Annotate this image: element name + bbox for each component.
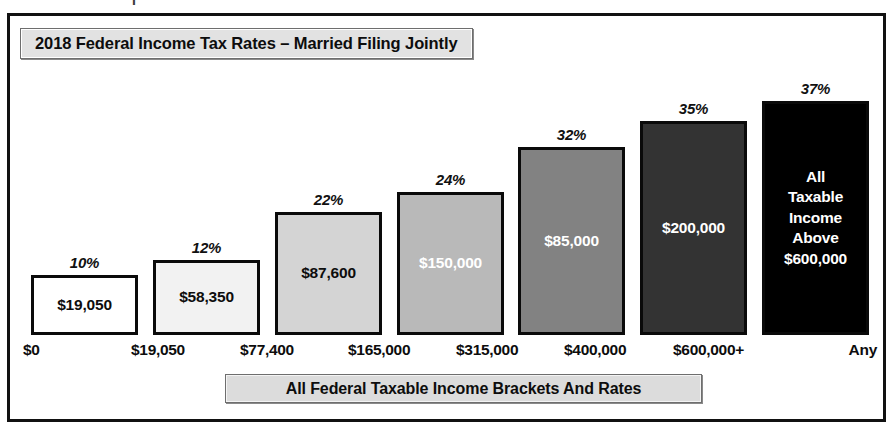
bar-value-label: $150,000 <box>417 253 484 273</box>
page-title: 2018 Federal Income Tax Rates – Married … <box>35 34 458 53</box>
bar-value-label: $19,050 <box>55 295 114 315</box>
bar-segment: $200,000 <box>640 121 747 335</box>
bar-value-label: $200,000 <box>660 218 727 238</box>
x-axis-tick: $77,400 <box>240 341 294 359</box>
bar-value-label: $87,600 <box>299 263 358 283</box>
bar-segment: All Taxable Income Above $600,000 <box>762 101 869 335</box>
bar-rate-label: 32% <box>518 126 625 143</box>
bar-value-label: $58,350 <box>177 287 236 307</box>
bar-column: 12%$58,350 <box>153 260 260 335</box>
bar-column: 35%$200,000 <box>640 121 747 335</box>
bar-column: 22%$87,600 <box>275 212 382 335</box>
x-axis-tick: Any <box>849 341 877 359</box>
x-axis-tick: $0 <box>23 341 40 359</box>
bar-value-label: All Taxable Income Above $600,000 <box>782 167 849 269</box>
chart-page: I 2018 Federal Income Tax Rates – Marrie… <box>0 0 894 430</box>
bar-column: 10%$19,050 <box>31 275 138 335</box>
bar-segment: $19,050 <box>31 275 138 335</box>
chart-frame: 2018 Federal Income Tax Rates – Married … <box>7 13 886 422</box>
bar-segment: $150,000 <box>397 192 504 335</box>
bar-rate-label: 22% <box>275 191 382 208</box>
bar-segment: $87,600 <box>275 212 382 335</box>
bar-value-label: $85,000 <box>542 231 601 251</box>
bar-rate-label: 24% <box>397 171 504 188</box>
bar-chart-plot: 10%$19,05012%$58,35022%$87,60024%$150,00… <box>31 66 869 335</box>
x-axis: $0$19,050$77,400$165,000$315,000$400,000… <box>17 341 883 367</box>
bar-rate-label: 10% <box>31 254 138 271</box>
bar-column: 32%$85,000 <box>518 147 625 335</box>
bar-rate-label: 37% <box>762 80 869 97</box>
bar-rate-label: 35% <box>640 100 747 117</box>
x-axis-tick: $600,000+ <box>673 341 744 359</box>
x-axis-tick: $315,000 <box>456 341 518 359</box>
x-axis-tick: $400,000 <box>564 341 626 359</box>
chart-footer-plate: All Federal Taxable Income Brackets And … <box>225 374 702 403</box>
bar-segment: $85,000 <box>518 147 625 335</box>
chart-title-plate: 2018 Federal Income Tax Rates – Married … <box>20 28 473 59</box>
bar-rate-label: 12% <box>153 239 260 256</box>
x-axis-tick: $19,050 <box>131 341 185 359</box>
bar-segment: $58,350 <box>153 260 260 335</box>
bar-column: 37%All Taxable Income Above $600,000 <box>762 101 869 335</box>
bar-column: 24%$150,000 <box>397 192 504 335</box>
x-axis-title: All Federal Taxable Income Brackets And … <box>286 380 642 398</box>
scan-artifact-glyph: I <box>132 0 148 6</box>
x-axis-tick: $165,000 <box>348 341 410 359</box>
